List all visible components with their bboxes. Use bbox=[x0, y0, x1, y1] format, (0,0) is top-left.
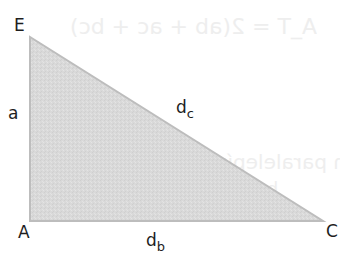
right-triangle-diagram bbox=[0, 0, 340, 271]
vertex-label-e: E bbox=[14, 17, 25, 34]
side-label-db-main: d bbox=[146, 230, 157, 250]
side-label-dc-subscript: c bbox=[187, 106, 194, 121]
side-label-db: db bbox=[146, 232, 165, 253]
side-label-a: a bbox=[8, 105, 18, 122]
side-label-dc-main: d bbox=[176, 97, 187, 117]
vertex-label-a: A bbox=[18, 224, 30, 241]
vertex-label-c: C bbox=[326, 223, 338, 240]
triangle-shape bbox=[30, 37, 323, 221]
side-label-dc: dc bbox=[176, 99, 194, 120]
side-label-db-subscript: b bbox=[157, 239, 165, 254]
